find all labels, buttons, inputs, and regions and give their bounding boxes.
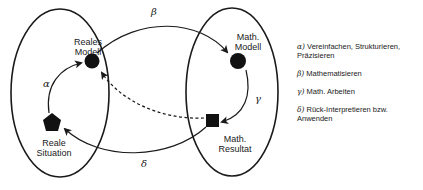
- delta-arrow: [65, 127, 206, 153]
- legend-text: Vereinfachen, Strukturieren, Präzisieren: [297, 42, 400, 60]
- reales-modell-label-line2: Modell: [68, 47, 108, 57]
- alpha-label: α: [43, 78, 50, 89]
- legend-item-delta: δ) Rück-Interpretieren bzw. Anwenden: [297, 105, 423, 123]
- legend-item-beta: β) Mathematisieren: [297, 69, 423, 78]
- gamma-label: γ: [255, 93, 261, 104]
- math-resultat-label: Math. Resultat: [214, 134, 256, 154]
- math-resultat-label-line1: Math.: [214, 134, 256, 144]
- reale-situation-label-line1: Reale: [32, 138, 76, 148]
- math-resultat-label-line2: Resultat: [214, 144, 256, 154]
- math-modell-node-icon: [230, 53, 246, 69]
- reales-modell-label-line1: Reales: [68, 37, 108, 47]
- beta-label: β: [151, 6, 157, 17]
- delta-label: δ: [141, 158, 147, 169]
- math-modell-label-line2: Modell: [230, 42, 266, 52]
- legend-text: Mathematisieren: [304, 69, 362, 78]
- validation-dashed-arrow: [102, 73, 204, 118]
- legend-symbol: α): [297, 42, 305, 51]
- alpha-arrow: [48, 63, 81, 113]
- legend-text: Math. Arbeiten: [304, 87, 354, 96]
- reale-situation-pentagon-icon: [43, 113, 61, 131]
- legend: α) Vereinfachen, Strukturieren, Präzisie…: [297, 42, 423, 132]
- math-modell-label-line1: Math.: [230, 32, 266, 42]
- math-resultat-square-icon: [206, 114, 219, 127]
- beta-arrow: [97, 26, 227, 53]
- reales-modell-label: Reales Modell: [68, 37, 108, 57]
- gamma-arrow: [222, 70, 248, 122]
- legend-item-alpha: α) Vereinfachen, Strukturieren, Präzisie…: [297, 42, 423, 60]
- reale-situation-label-line2: Situation: [32, 148, 76, 158]
- legend-text: Rück-Interpretieren bzw. Anwenden: [297, 105, 388, 123]
- legend-item-gamma: γ) Math. Arbeiten: [297, 87, 423, 96]
- reale-situation-label: Reale Situation: [32, 138, 76, 158]
- math-modell-label: Math. Modell: [230, 32, 266, 52]
